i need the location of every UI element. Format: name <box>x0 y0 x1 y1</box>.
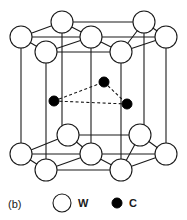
atom-w-top <box>110 41 132 63</box>
atom-w-bottom <box>10 143 32 165</box>
atom-w-bottom <box>155 143 177 165</box>
atom-w-top <box>133 11 155 33</box>
legend-marker-filled-circle <box>112 198 122 208</box>
atom-w-top <box>35 41 57 63</box>
atom-w-bottom <box>35 159 57 181</box>
legend-label-w: W <box>78 197 89 209</box>
panel-label: (b) <box>8 198 21 210</box>
legend-marker-open-circle <box>53 194 71 212</box>
atom-w-top <box>10 26 32 48</box>
atom-w-bottom <box>110 159 132 181</box>
atom-w-bottom <box>129 124 151 146</box>
atom-w-top <box>51 11 73 33</box>
atom-c-middle <box>99 77 109 87</box>
atom-w-top <box>155 26 177 48</box>
atom-w-bottom <box>80 143 102 165</box>
wc-crystal-structure-figure: WC (b) <box>0 0 187 220</box>
atom-c-middle <box>49 96 59 106</box>
atom-w-bottom <box>57 124 79 146</box>
atom-c-middle <box>122 99 132 109</box>
legend-label-c: C <box>129 197 137 209</box>
atom-w-top <box>80 26 102 48</box>
